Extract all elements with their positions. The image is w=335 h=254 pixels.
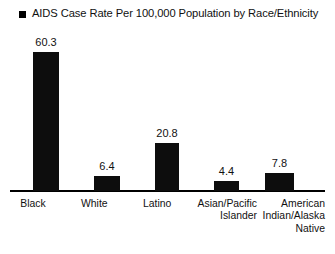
bar-value-label: 20.8: [156, 127, 177, 139]
bar-group: 60.3: [33, 0, 59, 254]
bar[interactable]: [94, 176, 120, 191]
bar[interactable]: [265, 173, 294, 191]
bar-value-label: 60.3: [35, 36, 56, 48]
bar[interactable]: [214, 181, 239, 191]
bar-group: 20.8: [155, 0, 179, 254]
bar-category-label: White: [81, 198, 107, 210]
bar-group: 6.4: [94, 0, 120, 254]
bar-value-label: 6.4: [99, 160, 114, 172]
bar-category-label: Latino: [143, 198, 167, 210]
plot-area: 60.3Black6.4White20.8Latino4.4Asian/Paci…: [0, 0, 335, 254]
bar[interactable]: [155, 143, 179, 191]
bar[interactable]: [33, 52, 59, 191]
bar-category-label: Black: [20, 198, 46, 210]
aids-case-rate-bar-chart: AIDS Case Rate Per 100,000 Population by…: [0, 0, 335, 254]
bar-value-label: 7.8: [272, 157, 287, 169]
bar-category-label: American Indian/Alaska Native: [246, 198, 325, 235]
bar-value-label: 4.4: [219, 165, 234, 177]
